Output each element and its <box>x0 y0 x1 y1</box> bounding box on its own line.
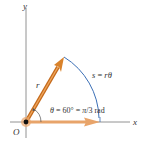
arc-theta-symbol: θ <box>108 70 112 80</box>
origin-label: O <box>13 127 20 137</box>
angle-formula: θ = 60° = π/3 rad <box>50 106 105 115</box>
radius-label: r <box>36 80 40 90</box>
y-axis-label: y <box>22 1 27 11</box>
baseline-arrow <box>26 118 100 127</box>
origin-dot <box>24 120 29 125</box>
angle-radian-diagram: y x O r s = rθ θ = 60° = π/3 rad <box>0 0 152 142</box>
x-axis-label: x <box>132 117 137 127</box>
angle-degrees: = 60° = <box>54 106 82 115</box>
arc-formula: s = rθ <box>92 70 112 80</box>
arc-equals: = <box>95 70 104 80</box>
angle-radians: /3 rad <box>86 106 104 115</box>
